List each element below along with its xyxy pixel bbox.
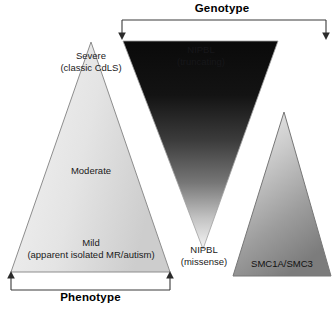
label-moderate: Moderate (31, 165, 151, 177)
label-mild: Mild (apparent isolated MR/autism) (5, 237, 177, 260)
phenotype-bracket (7, 271, 174, 290)
label-mild-line2: (apparent isolated MR/autism) (5, 249, 177, 261)
label-smc1a-smc3: SMC1A/SMC3 (234, 258, 330, 270)
label-moderate-line1: Moderate (31, 165, 151, 177)
label-nipbl-missense: NIPBL (missense) (163, 244, 245, 267)
label-nipbl-truncating: NIPBL (truncating) (160, 44, 242, 67)
label-nipbl-truncating-line1: NIPBL (160, 44, 242, 56)
genotype-phenotype-figure: Genotype Phenotype Severe (classic CdLS)… (0, 0, 334, 311)
genotype-bracket (118, 20, 330, 40)
label-mild-line1: Mild (5, 237, 177, 249)
label-nipbl-truncating-line2: (truncating) (160, 56, 242, 68)
label-nipbl-missense-line1: NIPBL (163, 244, 245, 256)
label-severe: Severe (classic CdLS) (31, 50, 151, 73)
label-severe-line2: (classic CdLS) (31, 62, 151, 74)
label-severe-line1: Severe (31, 50, 151, 62)
label-nipbl-missense-line2: (missense) (163, 256, 245, 268)
label-smc1a-smc3-line1: SMC1A/SMC3 (234, 258, 330, 270)
phenotype-title: Phenotype (0, 291, 181, 303)
genotype-title: Genotype (0, 2, 334, 14)
smc1a-smc3-triangle (233, 112, 331, 276)
